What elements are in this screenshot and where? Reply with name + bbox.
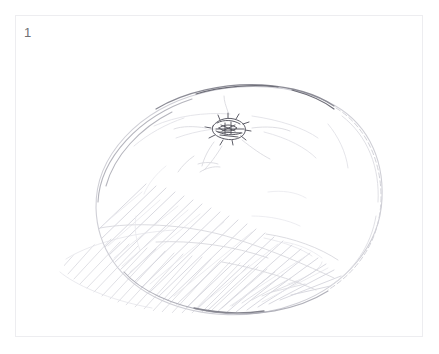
fruit-outline-right-soft [330, 116, 378, 286]
pencil-drawing [16, 16, 439, 354]
fruit-outline-top [156, 85, 334, 109]
figure-number-label: 1 [24, 26, 31, 40]
fruit-outline-left [98, 99, 192, 202]
body-hatching-secondary [104, 192, 328, 306]
fruit-outline-top-accent [196, 86, 334, 109]
screenshot-canvas: 1 [0, 0, 439, 354]
plate-frame [15, 15, 423, 337]
